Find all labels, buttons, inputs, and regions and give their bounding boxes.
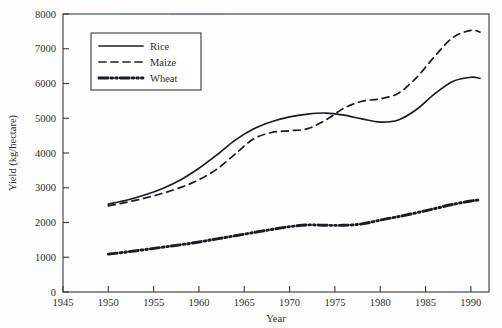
- y-tick-label: 1000: [35, 252, 56, 263]
- chart-background: [0, 0, 502, 328]
- y-axis-title-group: Yield (kg/hectare): [7, 114, 19, 191]
- x-tick-label: 1980: [370, 297, 391, 308]
- x-tick-label: 1990: [460, 297, 481, 308]
- x-tick-label: 1960: [188, 297, 209, 308]
- legend: Rice Maize Wheat: [91, 33, 201, 90]
- x-tick-label: 1975: [324, 297, 345, 308]
- legend-box: [91, 33, 201, 90]
- x-tick-label: 1970: [279, 297, 300, 308]
- y-tick-label: 6000: [35, 78, 56, 89]
- x-tick-label: 1955: [143, 297, 164, 308]
- y-tick-label: 2000: [35, 217, 56, 228]
- legend-label-rice: Rice: [150, 41, 170, 52]
- x-tick-label: 1965: [234, 297, 255, 308]
- y-tick-label: 0: [51, 287, 56, 298]
- y-tick-label: 7000: [35, 43, 56, 54]
- x-tick-label: 1950: [98, 297, 119, 308]
- yield-line-chart: 010002000300040005000600070008000 194519…: [0, 0, 502, 328]
- y-tick-label: 8000: [35, 9, 56, 20]
- y-tick-label: 3000: [35, 182, 56, 193]
- legend-label-maize: Maize: [150, 57, 177, 68]
- legend-label-wheat: Wheat: [150, 73, 177, 84]
- y-tick-label: 5000: [35, 113, 56, 124]
- x-tick-label: 1985: [415, 297, 436, 308]
- x-tick-label: 1945: [53, 297, 74, 308]
- chart-container: 010002000300040005000600070008000 194519…: [0, 0, 502, 328]
- x-axis-title: Year: [266, 313, 286, 324]
- y-axis-title: Yield (kg/hectare): [7, 114, 19, 191]
- y-tick-label: 4000: [35, 148, 56, 159]
